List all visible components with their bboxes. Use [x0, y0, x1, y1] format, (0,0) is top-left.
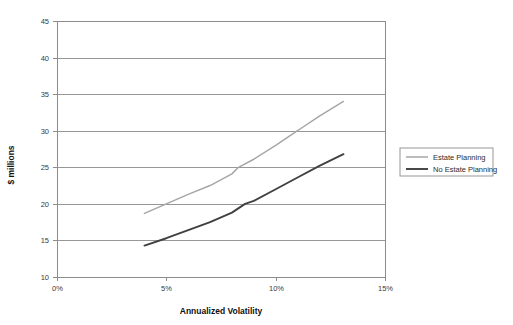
x-tick-label: 15%: [378, 284, 393, 293]
volatility-line-chart: 1015202530354045 0%5%10%15% Annualized V…: [0, 0, 513, 325]
chart-container: 1015202530354045 0%5%10%15% Annualized V…: [0, 0, 513, 325]
x-tick-label: 10%: [269, 284, 284, 293]
x-tick-marks: [58, 277, 386, 281]
y-tick-label: 20: [41, 200, 49, 209]
y-tick-label: 35: [41, 90, 49, 99]
y-axis-title: $ millions: [6, 145, 16, 184]
y-tick-label: 10: [41, 273, 49, 282]
x-axis-title: Annualized Volatility: [180, 306, 263, 316]
y-tick-label: 40: [41, 54, 49, 63]
y-tick-marks: [53, 22, 57, 278]
x-tick-label: 0%: [52, 284, 63, 293]
chart-legend[interactable]: Estate PlanningNo Estate Planning: [400, 148, 497, 176]
y-axis-tick-labels: 1015202530354045: [41, 17, 49, 282]
y-tick-label: 45: [41, 17, 49, 26]
legend-label: No Estate Planning: [433, 165, 497, 174]
x-tick-label: 5%: [161, 284, 172, 293]
y-tick-label: 25: [41, 163, 49, 172]
y-tick-label: 15: [41, 236, 49, 245]
legend-label: Estate Planning: [433, 153, 486, 162]
y-tick-label: 30: [41, 127, 49, 136]
x-axis-tick-labels: 0%5%10%15%: [52, 284, 393, 293]
plot-area-background: [57, 21, 385, 277]
